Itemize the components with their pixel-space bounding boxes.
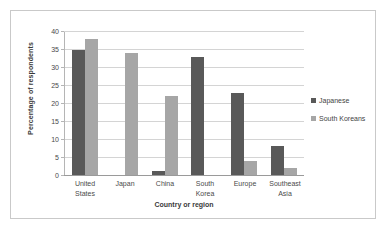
x-axis-line — [64, 175, 304, 176]
x-tick-label: SouthKorea — [185, 179, 225, 198]
y-tick-label: 5 — [55, 154, 59, 161]
bar — [72, 50, 85, 175]
y-tick-label: 15 — [51, 118, 59, 125]
bar — [125, 53, 138, 175]
legend-item[interactable]: Japanese — [311, 97, 365, 104]
y-tick-mark — [61, 157, 64, 158]
bar — [191, 57, 204, 175]
y-tick-mark — [61, 85, 64, 86]
bar-group — [224, 32, 264, 175]
y-tick-label: 35 — [51, 46, 59, 53]
bar — [231, 93, 244, 175]
y-tick-mark — [61, 175, 64, 176]
x-tick-label: China — [145, 179, 185, 198]
y-tick-mark — [61, 67, 64, 68]
legend-swatch-icon — [311, 116, 316, 121]
x-axis-title: Country or region — [64, 201, 304, 208]
bar-group — [105, 32, 145, 175]
y-tick-mark — [61, 103, 64, 104]
y-tick-label: 20 — [51, 100, 59, 107]
y-tick-label: 0 — [55, 172, 59, 179]
bar — [165, 96, 178, 175]
bar-group — [65, 32, 105, 175]
y-tick-mark — [61, 121, 64, 122]
y-tick-mark — [61, 49, 64, 50]
legend-label: Japanese — [319, 97, 349, 104]
y-tick-label: 25 — [51, 82, 59, 89]
y-tick-label: 30 — [51, 64, 59, 71]
x-tick-label: Europe — [225, 179, 265, 198]
bar-group — [264, 32, 304, 175]
y-axis-title: Percentage of respondents — [27, 29, 34, 149]
x-tick-labels: UnitedStatesJapanChinaSouthKoreaEuropeSo… — [65, 179, 305, 198]
y-tick-mark — [61, 31, 64, 32]
bar-group — [184, 32, 224, 175]
x-tick-label: Japan — [105, 179, 145, 198]
x-tick-label: SoutheastAsia — [265, 179, 305, 198]
x-tick-label: UnitedStates — [65, 179, 105, 198]
bar — [244, 161, 257, 175]
bar — [271, 146, 284, 175]
legend-label: South Koreans — [319, 115, 365, 122]
bar-group — [145, 32, 185, 175]
chart-frame: Percentage of respondents 05101520253035… — [10, 10, 376, 219]
legend-item[interactable]: South Koreans — [311, 115, 365, 122]
chart-legend: JapaneseSouth Koreans — [311, 97, 365, 133]
y-tick-mark — [61, 139, 64, 140]
bar — [152, 171, 165, 175]
y-tick-label: 10 — [51, 136, 59, 143]
plot-area: 0510152025303540 — [64, 32, 304, 176]
legend-swatch-icon — [311, 98, 316, 103]
y-tick-label: 40 — [51, 28, 59, 35]
bar — [85, 39, 98, 175]
bars-layer — [65, 32, 304, 175]
bar — [284, 168, 297, 175]
